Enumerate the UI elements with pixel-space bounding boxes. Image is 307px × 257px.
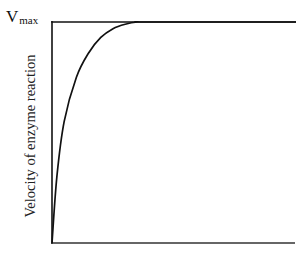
y-axis-label: Velocity of enzyme reaction: [22, 54, 39, 217]
chart-canvas: [0, 0, 307, 257]
vmax-subscript: max: [19, 14, 38, 26]
vmax-label: Vmax: [6, 8, 38, 26]
velocity-curve: [52, 22, 296, 243]
vmax-main: V: [6, 7, 18, 26]
